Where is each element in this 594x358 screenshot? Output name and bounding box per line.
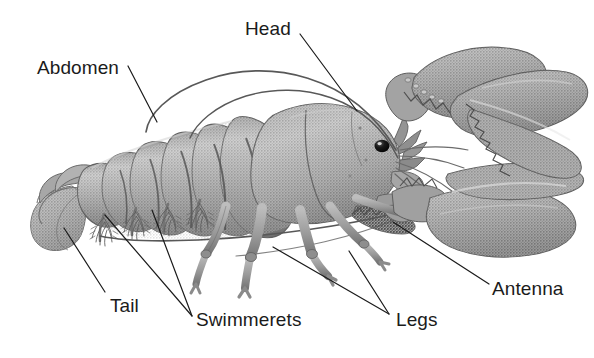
label-abdomen: Abdomen (37, 58, 119, 77)
label-head: Head (245, 19, 291, 38)
label-antenna: Antenna (492, 279, 564, 298)
label-legs: Legs (396, 310, 438, 329)
lobster-diagram: Head Abdomen Tail Swimmerets Legs Antenn… (0, 0, 594, 358)
label-swimmerets: Swimmerets (196, 310, 302, 329)
eye (375, 140, 390, 152)
label-tail: Tail (110, 296, 139, 315)
lobster-illustration (0, 0, 594, 358)
